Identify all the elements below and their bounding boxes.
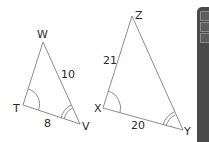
vertex-label-y: Y <box>184 126 191 137</box>
side-label-wv: 10 <box>61 69 75 80</box>
vertex-label-x: X <box>94 103 102 114</box>
toolbar-button-1[interactable] <box>200 11 209 21</box>
vertex-label-t: T <box>13 103 20 114</box>
side-label-xy: 20 <box>131 120 145 131</box>
vertex-label-v: V <box>82 121 90 132</box>
side-label-tv: 8 <box>44 118 51 129</box>
side-label-xz: 21 <box>103 55 117 66</box>
angle-mark-t <box>29 89 40 110</box>
side-toolbar <box>197 7 209 142</box>
triangle-xzy <box>103 16 183 130</box>
angle-mark-y-outer <box>163 112 174 125</box>
vertex-label-z: Z <box>135 10 143 21</box>
triangles-diagram <box>0 0 209 142</box>
angle-mark-v-outer <box>61 105 71 118</box>
triangle-twv <box>23 42 80 124</box>
vertex-label-w: W <box>37 29 48 40</box>
toolbar-button-3[interactable] <box>200 33 209 43</box>
toolbar-button-2[interactable] <box>200 22 209 32</box>
